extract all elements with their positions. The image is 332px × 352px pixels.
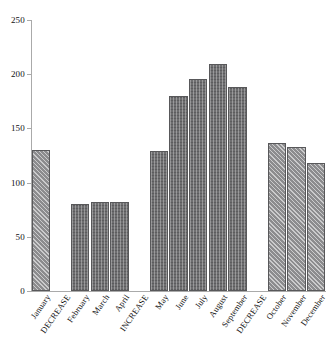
y-axis-tick-label: 50 [16, 232, 25, 242]
bar-april [110, 202, 128, 291]
x-axis-label-june-7: June [174, 293, 191, 311]
bar-july [189, 79, 207, 291]
x-axis-label-july-8: July [194, 293, 210, 310]
bar-june [169, 96, 187, 291]
bar-march [91, 202, 109, 291]
bar-august [209, 64, 227, 291]
y-axis-tick-label: 200 [11, 69, 25, 79]
x-axis-label-march-3: March [91, 293, 112, 317]
plot-area [31, 20, 326, 291]
bar-february [71, 204, 89, 291]
bar-november [287, 147, 305, 291]
y-axis-tick-label: 0 [20, 286, 25, 296]
x-axis-category-labels: JanuaryDECREASEFebruaryMarchAprilINCREAS… [31, 293, 326, 352]
bar-january [32, 150, 50, 291]
bar-october [268, 143, 286, 292]
bar-may [150, 151, 168, 291]
x-axis-label-may-6: May [154, 293, 171, 311]
bar-chart: 050100150200250 JanuaryDECREASEFebruaryM… [0, 0, 332, 352]
bar-september [228, 87, 246, 291]
x-axis-line [31, 291, 326, 292]
y-axis-tick-label: 250 [11, 15, 25, 25]
y-axis-tick-label: 150 [11, 123, 25, 133]
y-axis-tick-mark [27, 291, 31, 292]
bar-december [307, 163, 325, 291]
y-axis-tick-label: 100 [11, 178, 25, 188]
